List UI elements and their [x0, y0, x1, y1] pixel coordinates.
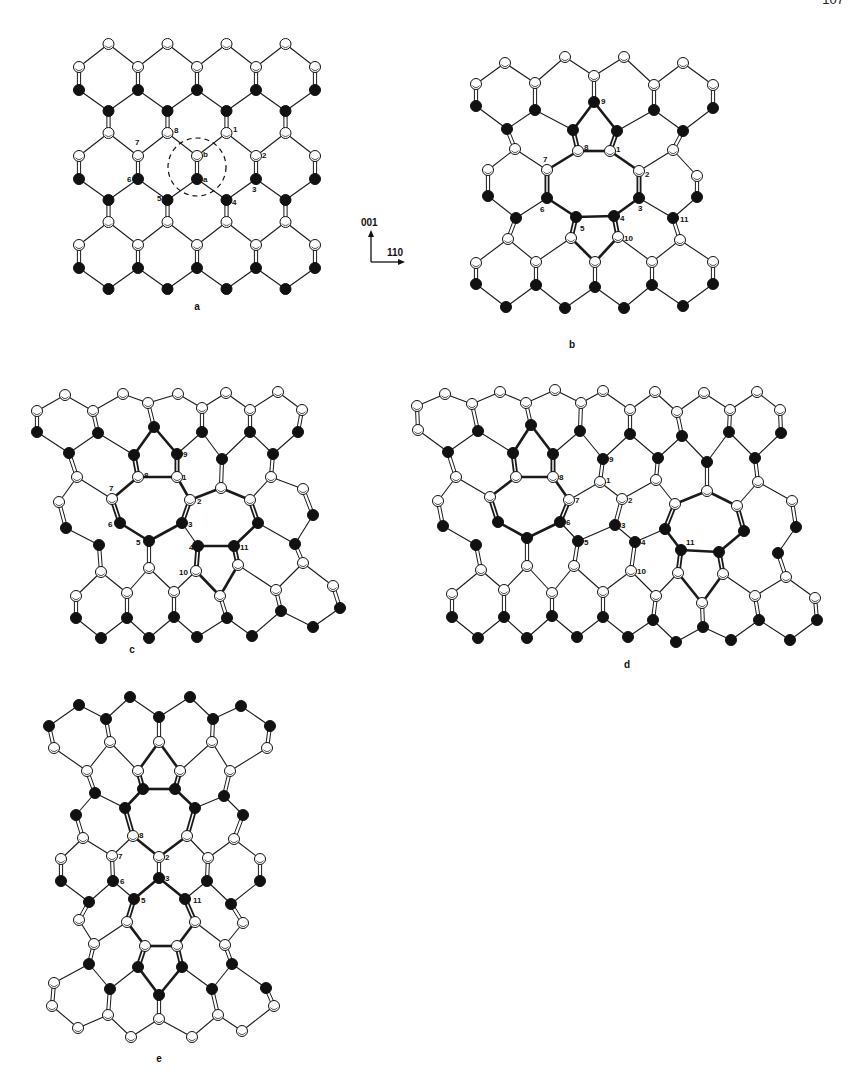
- black-atom-icon: [785, 635, 796, 646]
- black-atom-icon: [144, 633, 155, 644]
- black-atom-icon: [74, 700, 85, 711]
- black-atom-icon: [74, 85, 85, 96]
- atom-number-label: 2: [165, 853, 170, 862]
- black-atom-icon: [133, 263, 144, 274]
- black-atom-icon: [668, 213, 679, 224]
- black-atom-icon: [335, 603, 346, 614]
- black-atom-icon: [221, 284, 232, 295]
- black-atom-icon: [511, 213, 522, 224]
- black-atom-icon: [162, 195, 173, 206]
- panel-d-separated-defects: 9817263541011d: [412, 385, 823, 671]
- bond: [258, 523, 295, 544]
- black-atom-icon: [71, 613, 82, 624]
- atom-number-label: 4: [232, 198, 237, 207]
- black-atom-icon: [169, 612, 180, 623]
- black-atom-icon: [103, 195, 114, 206]
- atoms: [412, 385, 823, 648]
- black-atom-icon: [590, 282, 601, 293]
- black-atom-icon: [649, 105, 660, 116]
- axis-label-001: 001: [361, 217, 378, 228]
- black-atom-icon: [251, 85, 262, 96]
- black-atom-icon: [573, 536, 584, 547]
- black-atom-icon: [56, 876, 67, 887]
- black-atom-icon: [473, 633, 484, 644]
- black-atom-icon: [115, 518, 126, 529]
- black-atom-icon: [180, 894, 191, 905]
- black-atom-icon: [74, 263, 85, 274]
- black-atom-icon: [222, 613, 233, 624]
- black-atom-icon: [138, 784, 149, 795]
- black-atom-icon: [74, 174, 85, 185]
- black-atom-icon: [610, 520, 621, 531]
- atom-number-label: 8: [584, 143, 589, 152]
- panel-e-stacked-defects: 87263511e: [44, 692, 280, 1065]
- atom-number-label: 1: [233, 125, 238, 134]
- black-atom-icon: [192, 85, 203, 96]
- black-atom-icon: [207, 984, 218, 995]
- black-atom-icon: [177, 962, 188, 973]
- black-atom-icon: [438, 521, 449, 532]
- black-atom-icon: [261, 983, 272, 994]
- atom-number-label: 6: [127, 175, 132, 184]
- black-atom-icon: [227, 959, 238, 970]
- black-atom-icon: [647, 280, 658, 291]
- black-atom-icon: [526, 420, 537, 431]
- panel-a-perfect-lattice: 12345678baa: [74, 39, 321, 313]
- atom-number-label: 5: [580, 224, 585, 233]
- figure-canvas: 12345678baa 9817263541011b 9817263541110…: [0, 0, 856, 1085]
- black-atom-icon: [308, 510, 319, 521]
- bond: [617, 110, 654, 131]
- atom-number-label: 1: [182, 473, 187, 482]
- black-atom-icon: [71, 810, 82, 821]
- black-atom-icon: [32, 427, 43, 438]
- black-atom-icon: [555, 517, 566, 528]
- atom-number-label: 7: [135, 138, 140, 147]
- black-atom-icon: [634, 193, 645, 204]
- atom-number-label: 2: [628, 496, 633, 505]
- black-atom-icon: [280, 106, 291, 117]
- atom-number-label: 6: [566, 518, 571, 527]
- atom-number-label: 9: [601, 97, 606, 106]
- black-atom-icon: [238, 810, 249, 821]
- black-atom-icon: [129, 450, 140, 461]
- black-atom-icon: [154, 873, 165, 884]
- black-atom-icon: [247, 631, 258, 642]
- black-atom-icon: [598, 612, 609, 623]
- atom-number-label: 7: [118, 852, 123, 861]
- atom-number-label: 1: [616, 145, 621, 154]
- black-atom-icon: [103, 284, 114, 295]
- black-atom-icon: [493, 517, 504, 528]
- black-atom-icon: [265, 721, 276, 732]
- black-atom-icon: [508, 448, 519, 459]
- atom-number-label: 11: [686, 538, 695, 547]
- bond: [77, 477, 112, 499]
- bond: [242, 1006, 274, 1031]
- black-atom-icon: [648, 615, 659, 626]
- black-atom-icon: [94, 540, 105, 551]
- atoms: [74, 39, 321, 295]
- black-atom-icon: [245, 427, 256, 438]
- black-atom-icon: [293, 427, 304, 438]
- black-atom-icon: [501, 302, 512, 313]
- black-atom-icon: [471, 279, 482, 290]
- atom-number-label: 6: [120, 877, 125, 886]
- black-atom-icon: [197, 427, 208, 438]
- atom-number-label: 2: [262, 151, 267, 160]
- panel-c-defect-pair: 9817263541110c: [32, 387, 346, 656]
- atom-number-label: 2: [645, 170, 650, 179]
- panel-label-c: c: [129, 644, 135, 655]
- black-atom-icon: [739, 526, 750, 537]
- black-atom-icon: [202, 876, 213, 887]
- black-atom-icon: [676, 545, 687, 556]
- arrow-right-icon: [398, 259, 405, 265]
- black-atom-icon: [619, 303, 630, 314]
- atom-number-label: 3: [621, 521, 626, 530]
- atom-number-label: 5: [136, 538, 141, 547]
- atom-number-label: 6: [108, 520, 113, 529]
- atom-labels: 87263511: [118, 831, 202, 905]
- bond: [535, 110, 573, 130]
- black-atom-icon: [548, 449, 559, 460]
- panel-label-d: d: [624, 659, 630, 670]
- black-atom-icon: [310, 263, 321, 274]
- atom-labels: 12345678ba: [127, 125, 267, 207]
